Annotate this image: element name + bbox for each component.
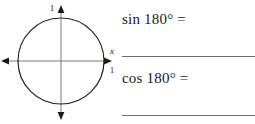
unit-circle-diagram: 1 x 1 (0, 0, 118, 124)
problem-sin: sin 180° = (122, 10, 255, 28)
x-axis-negative-arrowhead (1, 58, 9, 65)
y-axis-positive-arrowhead (58, 5, 65, 13)
problem-list: sin 180° = cos 180° = (122, 0, 255, 124)
y-axis-unit-label: 1 (50, 3, 55, 13)
answer-blank-cos[interactable] (122, 115, 255, 116)
unit-circle-figure: 1 x 1 (0, 0, 118, 124)
answer-blank-sin[interactable] (122, 56, 255, 57)
y-axis-negative-arrowhead (58, 112, 65, 120)
problem-cos: cos 180° = (122, 69, 255, 87)
x-axis-label: x (109, 46, 114, 56)
x-axis-positive-arrowhead (104, 58, 112, 65)
problem-cos-prompt: cos 180° = (122, 69, 255, 87)
problem-sin-prompt: sin 180° = (122, 10, 255, 28)
x-axis-unit-label: 1 (110, 65, 115, 75)
worksheet: 1 x 1 sin 180° = cos 180° = (0, 0, 255, 124)
